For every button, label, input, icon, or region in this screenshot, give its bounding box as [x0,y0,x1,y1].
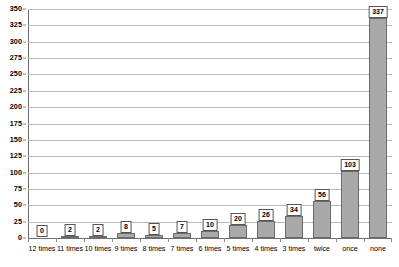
bar-slot: 2 [84,9,112,238]
y-tick-label: 250 [10,71,22,78]
y-tick-label: 50 [14,202,22,209]
y-tick-label: 200 [10,104,22,111]
x-tick-mark [336,238,364,242]
x-tick-label: 5 times [224,244,252,254]
bar-value-label: 34 [287,204,302,216]
bar-value-label: 8 [121,221,132,233]
x-tick-mark [112,238,140,242]
bar[interactable]: 20 [229,225,247,238]
bar-value-label: 337 [369,6,388,18]
x-tick-label: 7 times [168,244,196,254]
bar-slot: 10 [196,9,224,238]
x-tick-mark [308,238,336,242]
y-tick-mark [23,123,26,124]
x-tick-mark [252,238,280,242]
bar[interactable]: 337 [369,18,387,238]
bar[interactable]: 26 [257,221,275,238]
x-tick-label: 11 times [56,244,84,254]
y-tick-mark [23,58,26,59]
y-tick-label: 300 [10,38,22,45]
y-tick-label: 75 [14,185,22,192]
bar-slot: 56 [308,9,336,238]
x-tick-label: 4 times [252,244,280,254]
y-tick-mark [23,188,26,189]
y-tick-label: 325 [10,22,22,29]
y-axis: 3503253002752502252001751501251007550250 [0,9,26,238]
bar-slot: 0 [28,9,56,238]
bar-value-label: 2 [65,224,76,236]
bar-slot: 5 [140,9,168,238]
x-tick-mark [140,238,168,242]
x-tick-mark [28,238,56,242]
x-tick-label: twice [308,244,336,254]
bar-slot: 2 [56,9,84,238]
y-tick-label: 25 [14,218,22,225]
x-tick-label: 8 times [140,244,168,254]
bar-value-label: 20 [231,213,246,225]
bar-slot: 34 [280,9,308,238]
y-tick-mark [23,90,26,91]
x-tick-label: 6 times [196,244,224,254]
bar[interactable]: 103 [341,171,359,238]
x-tick-label: 3 times [280,244,308,254]
bar-value-label: 26 [259,209,274,221]
x-tick-mark [196,238,224,242]
y-tick-mark [23,238,26,239]
y-tick-label: 100 [10,169,22,176]
y-tick-mark [23,9,26,10]
x-tick-label: none [364,244,392,254]
y-tick-label: 0 [18,234,22,241]
y-tick-label: 150 [10,136,22,143]
bar-value-label: 7 [177,221,188,233]
bar-slot: 8 [112,9,140,238]
y-tick-mark [23,221,26,222]
y-tick-mark [23,41,26,42]
x-tick-label: 10 times [84,244,112,254]
bar[interactable]: 56 [313,201,331,238]
bar-value-label: 56 [315,189,330,201]
x-tick-mark [84,238,112,242]
bar-chart: 3503253002752502252001751501251007550250… [0,0,399,267]
x-tick-mark [168,238,196,242]
y-tick-label: 175 [10,120,22,127]
bar-slot: 26 [252,9,280,238]
x-tick-mark [224,238,252,242]
x-tick-label: 9 times [112,244,140,254]
bar-slot: 103 [336,9,364,238]
y-tick-label: 125 [10,153,22,160]
y-tick-label: 350 [10,5,22,12]
x-tick-label: once [336,244,364,254]
y-tick-mark [23,74,26,75]
x-tick-label: 12 times [28,244,56,254]
y-tick-label: 275 [10,54,22,61]
y-tick-mark [23,25,26,26]
bar-value-label: 5 [149,223,160,235]
bar-slot: 20 [224,9,252,238]
bar[interactable]: 34 [285,216,303,238]
y-tick-mark [23,205,26,206]
bar-slot: 337 [364,9,392,238]
y-tick-mark [23,139,26,140]
x-tick-mark [280,238,308,242]
x-tick-mark [56,238,84,242]
bar-value-label: 2 [93,224,104,236]
y-tick-mark [23,172,26,173]
x-axis-labels: 12 times11 times10 times9 times8 times7 … [28,244,392,254]
x-tick-mark [364,238,392,242]
bar-value-label: 10 [203,219,218,231]
bar-series: 0228571020263456103337 [28,9,392,238]
plot-area: 0228571020263456103337 [28,9,392,238]
bar-value-label: 103 [341,159,360,171]
bar-slot: 7 [168,9,196,238]
y-tick-mark [23,156,26,157]
y-tick-mark [23,107,26,108]
y-tick-label: 225 [10,87,22,94]
x-axis-tickmarks [28,238,392,242]
bar-value-label: 0 [37,225,48,237]
